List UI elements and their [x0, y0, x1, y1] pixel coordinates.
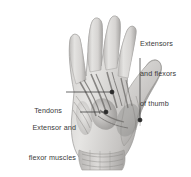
leader-dot-tendons — [110, 90, 114, 94]
middle-finger — [88, 18, 103, 72]
label-line: and flexors — [140, 69, 176, 79]
label-extensors-flexors-thumb: Extensors and flexors of thumb — [140, 19, 176, 129]
label-line: Extensor and — [6, 123, 76, 133]
little-finger — [118, 26, 136, 78]
label-line: Extensors — [140, 39, 176, 49]
leader-dot-muscles — [104, 110, 108, 114]
hand-anatomy-figure: Extensors and flexors of thumb Tendons E… — [0, 0, 191, 177]
label-extensor-flexor-muscles-of-hand: Extensor and flexor muscles of hand — [6, 103, 76, 177]
label-line: of thumb — [140, 99, 176, 109]
ring-finger — [104, 16, 121, 70]
label-line: flexor muscles — [6, 153, 76, 163]
